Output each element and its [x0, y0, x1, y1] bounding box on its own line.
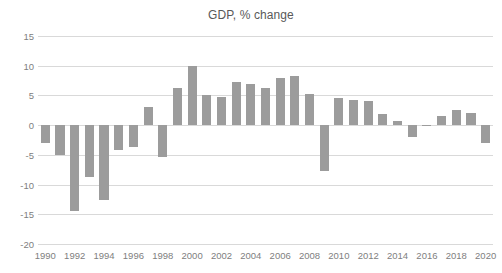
bar-2017[interactable]: [437, 116, 446, 126]
y-axis-labels: 151050-5-10-15-20: [0, 36, 34, 244]
bar-2012[interactable]: [364, 101, 373, 125]
bar-1995[interactable]: [114, 125, 123, 149]
y-tick-label--15: -15: [0, 209, 34, 220]
bar-2011[interactable]: [349, 100, 358, 126]
bar-2009[interactable]: [320, 125, 329, 171]
gridline--15: [38, 214, 493, 215]
bar-2003[interactable]: [232, 82, 241, 125]
gdp-bar-chart: GDP, % change 151050-5-10-15-20 19901992…: [0, 0, 502, 273]
bar-2001[interactable]: [202, 95, 211, 125]
bar-2010[interactable]: [334, 98, 343, 125]
y-tick-label-5: 5: [0, 90, 34, 101]
bar-1994[interactable]: [99, 125, 108, 200]
x-tick-label-2004: 2004: [240, 250, 261, 261]
plot-area: [38, 36, 493, 244]
x-tick-label-1996: 1996: [123, 250, 144, 261]
bar-2014[interactable]: [393, 121, 402, 125]
gridline--20: [38, 244, 493, 245]
x-tick-label-1998: 1998: [152, 250, 173, 261]
gridline-15: [38, 36, 493, 37]
x-axis-labels: 1990199219941996199820002002200420062008…: [38, 250, 493, 270]
y-tick-label-0: 0: [0, 120, 34, 131]
x-tick-label-1992: 1992: [64, 250, 85, 261]
bar-1993[interactable]: [85, 125, 94, 177]
bar-1990[interactable]: [41, 125, 50, 143]
bar-2004[interactable]: [246, 84, 255, 126]
bar-2002[interactable]: [217, 97, 226, 125]
bar-1992[interactable]: [70, 125, 79, 211]
bar-2000[interactable]: [188, 66, 197, 125]
x-tick-label-2000: 2000: [182, 250, 203, 261]
bar-2005[interactable]: [261, 88, 270, 125]
x-tick-label-2020: 2020: [475, 250, 496, 261]
bar-1999[interactable]: [173, 88, 182, 125]
x-tick-label-2010: 2010: [328, 250, 349, 261]
x-tick-label-2018: 2018: [446, 250, 467, 261]
bar-2013[interactable]: [378, 114, 387, 125]
bar-1997[interactable]: [144, 107, 153, 125]
bar-2016[interactable]: [422, 125, 431, 126]
y-tick-label-15: 15: [0, 31, 34, 42]
x-tick-label-2016: 2016: [416, 250, 437, 261]
bar-1996[interactable]: [129, 125, 138, 146]
bar-2008[interactable]: [305, 94, 314, 125]
bar-2019[interactable]: [466, 113, 475, 125]
y-tick-label--10: -10: [0, 179, 34, 190]
chart-title: GDP, % change: [0, 8, 502, 22]
x-tick-label-2008: 2008: [299, 250, 320, 261]
bar-2020[interactable]: [481, 125, 490, 143]
x-tick-label-2014: 2014: [387, 250, 408, 261]
x-tick-label-1994: 1994: [93, 250, 114, 261]
bar-1991[interactable]: [55, 125, 64, 155]
x-tick-label-1990: 1990: [35, 250, 56, 261]
bar-2006[interactable]: [276, 78, 285, 126]
y-tick-label--5: -5: [0, 149, 34, 160]
y-tick-label--20: -20: [0, 239, 34, 250]
x-tick-label-2012: 2012: [358, 250, 379, 261]
x-tick-label-2002: 2002: [211, 250, 232, 261]
x-tick-label-2006: 2006: [270, 250, 291, 261]
bar-1998[interactable]: [158, 125, 167, 156]
y-tick-label-10: 10: [0, 60, 34, 71]
bar-2018[interactable]: [452, 110, 461, 125]
bar-2015[interactable]: [408, 125, 417, 137]
bar-2007[interactable]: [290, 76, 299, 125]
gridline-10: [38, 66, 493, 67]
